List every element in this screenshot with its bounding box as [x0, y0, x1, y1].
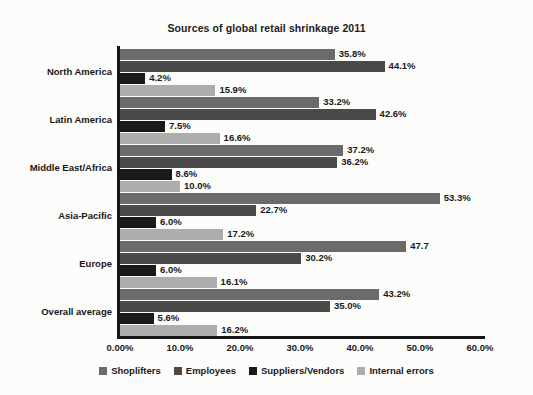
category-label: Overall average: [0, 306, 112, 317]
bar[interactable]: [120, 289, 379, 300]
bar-row: 15.9%: [120, 85, 480, 96]
chart-title: Sources of global retail shrinkage 2011: [0, 22, 533, 34]
bar[interactable]: [120, 277, 217, 288]
x-axis-tick-label: 40.0%: [347, 342, 374, 353]
bar-group: 37.2%36.2%8.6%10.0%: [120, 145, 480, 193]
legend-item[interactable]: Employees: [174, 365, 236, 376]
bar-value-label: 37.2%: [347, 144, 374, 156]
category-label: Latin America: [0, 114, 112, 125]
legend-label: Employees: [186, 365, 236, 376]
bar[interactable]: [120, 265, 156, 276]
bar-value-label: 6.0%: [160, 216, 182, 228]
x-axis-tick-label: 60.0%: [467, 342, 494, 353]
bar-value-label: 33.2%: [323, 96, 350, 108]
category-label: Asia-Pacific: [0, 210, 112, 221]
plot-area: 35.8%44.1%4.2%15.9%33.2%42.6%7.5%16.6%37…: [120, 48, 480, 336]
bar-row: 35.0%: [120, 301, 480, 312]
bar-group: 47.730.2%6.0%16.1%: [120, 241, 480, 289]
bar[interactable]: [120, 121, 165, 132]
category-label: North America: [0, 66, 112, 77]
bar[interactable]: [120, 49, 335, 60]
bar[interactable]: [120, 229, 223, 240]
bar-value-label: 22.7%: [260, 204, 287, 216]
bar[interactable]: [120, 145, 343, 156]
bar-row: 5.6%: [120, 313, 480, 324]
bar-row: 42.6%: [120, 109, 480, 120]
bar-row: 35.8%: [120, 49, 480, 60]
bar-value-label: 53.3%: [444, 192, 471, 204]
bar[interactable]: [120, 109, 376, 120]
bar-value-label: 6.0%: [160, 264, 182, 276]
bar[interactable]: [120, 325, 217, 336]
x-axis-tick-labels: 0.00%10.0%20.0%30.0%40.0%50.0%60.0%: [0, 342, 533, 358]
bar-row: 4.2%: [120, 73, 480, 84]
bar[interactable]: [120, 85, 215, 96]
bar-value-label: 36.2%: [341, 156, 368, 168]
bar-row: 37.2%: [120, 145, 480, 156]
x-axis-tick-label: 30.0%: [287, 342, 314, 353]
bar-row: 16.6%: [120, 133, 480, 144]
legend-label: Shoplifters: [111, 365, 161, 376]
legend-item[interactable]: Suppliers/Vendors: [249, 365, 344, 376]
bar-value-label: 4.2%: [149, 72, 171, 84]
bar-group: 33.2%42.6%7.5%16.6%: [120, 97, 480, 145]
bar[interactable]: [120, 241, 406, 252]
category-label: Middle East/Africa: [0, 162, 112, 173]
bar-value-label: 17.2%: [227, 228, 254, 240]
bar-value-label: 16.6%: [224, 132, 251, 144]
category-label: Europe: [0, 258, 112, 269]
bar-row: 43.2%: [120, 289, 480, 300]
bar[interactable]: [120, 301, 330, 312]
bar-row: 8.6%: [120, 169, 480, 180]
bar-row: 7.5%: [120, 121, 480, 132]
category-axis-labels: North AmericaLatin AmericaMiddle East/Af…: [0, 48, 112, 336]
bar-row: 22.7%: [120, 205, 480, 216]
bar[interactable]: [120, 217, 156, 228]
bar[interactable]: [120, 253, 301, 264]
x-axis-tick-label: 20.0%: [227, 342, 254, 353]
bar-group: 53.3%22.7%6.0%17.2%: [120, 193, 480, 241]
bar-row: 16.1%: [120, 277, 480, 288]
legend-item[interactable]: Internal errors: [357, 365, 433, 376]
x-axis-tick-label: 0.00%: [107, 342, 134, 353]
bar-value-label: 10.0%: [184, 180, 211, 192]
bar[interactable]: [120, 97, 319, 108]
bar[interactable]: [120, 133, 220, 144]
bar-value-label: 44.1%: [389, 60, 416, 72]
legend-swatch-icon: [99, 367, 107, 375]
bar-value-label: 15.9%: [219, 84, 246, 96]
bar[interactable]: [120, 313, 154, 324]
bar-group: 43.2%35.0%5.6%16.2%: [120, 289, 480, 337]
bar-row: 6.0%: [120, 217, 480, 228]
bar-value-label: 7.5%: [169, 120, 191, 132]
bar-row: 53.3%: [120, 193, 480, 204]
bar-row: 33.2%: [120, 97, 480, 108]
legend-swatch-icon: [357, 367, 365, 375]
chart-legend: ShopliftersEmployeesSuppliers/VendorsInt…: [0, 365, 533, 376]
bar-value-label: 42.6%: [380, 108, 407, 120]
bar-value-label: 16.1%: [221, 276, 248, 288]
bar[interactable]: [120, 157, 337, 168]
bar-row: 16.2%: [120, 325, 480, 336]
bar-value-label: 16.2%: [221, 324, 248, 336]
legend-item[interactable]: Shoplifters: [99, 365, 161, 376]
x-axis-tick-label: 50.0%: [407, 342, 434, 353]
bar-value-label: 8.6%: [176, 168, 198, 180]
bar-row: 10.0%: [120, 181, 480, 192]
bar-group: 35.8%44.1%4.2%15.9%: [120, 49, 480, 97]
bar-row: 47.7: [120, 241, 480, 252]
x-axis-tick-label: 10.0%: [167, 342, 194, 353]
bar-row: 17.2%: [120, 229, 480, 240]
legend-label: Internal errors: [369, 365, 433, 376]
bar[interactable]: [120, 205, 256, 216]
bar[interactable]: [120, 181, 180, 192]
bar-row: 6.0%: [120, 265, 480, 276]
bar[interactable]: [120, 193, 440, 204]
bar-value-label: 30.2%: [305, 252, 332, 264]
legend-label: Suppliers/Vendors: [261, 365, 344, 376]
bar[interactable]: [120, 61, 385, 72]
bar[interactable]: [120, 169, 172, 180]
legend-swatch-icon: [174, 367, 182, 375]
bar-row: 44.1%: [120, 61, 480, 72]
bar[interactable]: [120, 73, 145, 84]
